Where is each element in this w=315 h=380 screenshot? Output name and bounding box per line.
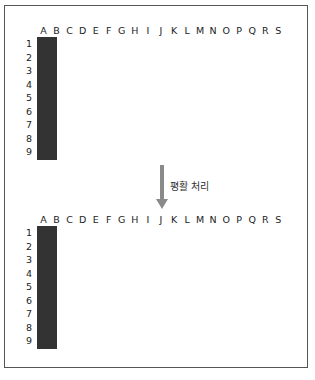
grid-row [38, 51, 57, 65]
row-label: 6 [18, 294, 32, 308]
column-label: J [154, 214, 167, 226]
row-label: 6 [18, 105, 32, 119]
grid-cell-S3 [56, 254, 57, 268]
column-label: L [181, 25, 194, 37]
column-label: S [272, 25, 285, 37]
row-label: 3 [18, 64, 32, 78]
column-label: C [63, 25, 76, 37]
column-label: R [259, 25, 272, 37]
grid-cell-S8 [56, 321, 57, 335]
column-label: G [115, 25, 128, 37]
row-label: 1 [18, 226, 32, 240]
column-label: Q [246, 214, 259, 226]
column-label: M [194, 214, 207, 226]
column-label: A [37, 214, 50, 226]
column-label: B [50, 25, 63, 37]
column-label: M [194, 25, 207, 37]
column-label: N [207, 214, 220, 226]
row-labels: 123456789 [18, 226, 32, 348]
grid-cell-S4 [56, 78, 57, 92]
grid-row [38, 78, 57, 92]
grid-cell-S6 [56, 105, 57, 119]
grid-row [38, 105, 57, 119]
grid-row [38, 132, 57, 146]
grid-cell-S9 [56, 146, 57, 160]
row-label: 9 [18, 145, 32, 159]
column-label: I [141, 214, 154, 226]
row-label: 5 [18, 91, 32, 105]
column-label: K [167, 214, 180, 226]
grid-row [38, 294, 57, 308]
row-label: 7 [18, 307, 32, 321]
column-label: P [233, 214, 246, 226]
column-label: O [220, 214, 233, 226]
row-label: 8 [18, 321, 32, 335]
grid-row [38, 146, 57, 160]
column-label: O [220, 25, 233, 37]
grid-row [38, 254, 57, 268]
down-arrow-icon [156, 199, 168, 209]
column-label: H [128, 214, 141, 226]
column-labels: ABCDEFGHIJKLMNOPQRS [37, 25, 285, 37]
row-label: 7 [18, 118, 32, 132]
row-label: 3 [18, 253, 32, 267]
grid-row [38, 38, 57, 52]
grid-cell-S5 [56, 281, 57, 295]
column-label: E [89, 214, 102, 226]
arrow-shaft [160, 165, 164, 199]
row-label: 5 [18, 280, 32, 294]
column-label: F [102, 25, 115, 37]
row-label: 4 [18, 267, 32, 281]
grid-row [38, 65, 57, 79]
row-label: 2 [18, 240, 32, 254]
column-label: D [76, 214, 89, 226]
row-label: 4 [18, 78, 32, 92]
grid-cell-S7 [56, 308, 57, 322]
original-pixel-grid [37, 37, 57, 160]
column-label: S [272, 214, 285, 226]
row-label: 9 [18, 334, 32, 348]
smoothed-pixel-grid [37, 226, 57, 349]
grid-cell-S9 [56, 335, 57, 349]
grid-cell-S3 [56, 65, 57, 79]
row-labels: 123456789 [18, 37, 32, 159]
column-label: I [141, 25, 154, 37]
column-labels: ABCDEFGHIJKLMNOPQRS [37, 214, 285, 226]
column-label: K [167, 25, 180, 37]
grid-cell-S8 [56, 132, 57, 146]
grid-row [38, 335, 57, 349]
grid-cell-S1 [56, 227, 57, 241]
column-label: F [102, 214, 115, 226]
grid-row [38, 240, 57, 254]
column-label: B [50, 214, 63, 226]
row-label: 8 [18, 132, 32, 146]
grid-cell-S2 [56, 51, 57, 65]
grid-cell-S5 [56, 92, 57, 106]
grid-cell-S4 [56, 267, 57, 281]
grid-row [38, 92, 57, 106]
column-label: Q [246, 25, 259, 37]
grid-row [38, 267, 57, 281]
column-label: L [181, 214, 194, 226]
column-label: G [115, 214, 128, 226]
grid-cell-S7 [56, 119, 57, 133]
column-label: H [128, 25, 141, 37]
grid-row [38, 308, 57, 322]
grid-cell-S2 [56, 240, 57, 254]
column-label: J [154, 25, 167, 37]
column-label: E [89, 25, 102, 37]
column-label: A [37, 25, 50, 37]
grid-row [38, 119, 57, 133]
grid-row [38, 227, 57, 241]
smoothing-label: 평활 처리 [170, 178, 209, 193]
grid-row [38, 281, 57, 295]
row-label: 1 [18, 37, 32, 51]
grid-row [38, 321, 57, 335]
row-label: 2 [18, 51, 32, 65]
column-label: P [233, 25, 246, 37]
column-label: R [259, 214, 272, 226]
grid-cell-S6 [56, 294, 57, 308]
column-label: D [76, 25, 89, 37]
column-label: N [207, 25, 220, 37]
grid-cell-S1 [56, 38, 57, 52]
